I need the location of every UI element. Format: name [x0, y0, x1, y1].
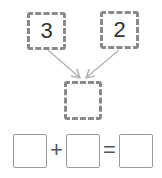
- equals-sign: =: [103, 139, 116, 161]
- plus-sign: +: [50, 139, 63, 161]
- sum-answer-box[interactable]: [64, 81, 102, 120]
- equation-addend-2-box[interactable]: [66, 134, 100, 168]
- right-arrow-icon: [87, 50, 119, 77]
- equation-result-box[interactable]: [119, 134, 153, 168]
- equation-addend-1-box[interactable]: [13, 134, 47, 168]
- left-arrow-icon: [48, 50, 79, 77]
